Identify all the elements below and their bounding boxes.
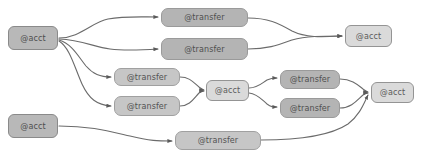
node-label-acct-2: @acct (356, 32, 381, 41)
node-transfer-3[interactable]: @transfer (114, 68, 180, 86)
edge-acct-1-to-transfer-4 (59, 41, 111, 106)
edge-transfer-1-to-acct-2 (248, 18, 342, 37)
node-transfer-4[interactable]: @transfer (114, 96, 180, 116)
node-label-transfer-5: @transfer (290, 75, 331, 84)
edge-transfer-2-to-acct-2 (248, 36, 342, 49)
node-transfer-5[interactable]: @transfer (280, 70, 340, 89)
edge-acct-3-to-transfer-5 (249, 78, 277, 88)
node-acct-5[interactable]: @acct (8, 114, 58, 138)
edge-acct-1-to-transfer-1 (59, 17, 158, 38)
edge-transfer-6-to-acct-4 (340, 93, 368, 108)
edge-acct-1-to-transfer-2 (59, 39, 158, 50)
node-label-acct-3: @acct (215, 86, 240, 95)
node-label-transfer-2: @transfer (184, 45, 225, 54)
edge-acct-3-to-transfer-6 (249, 93, 277, 107)
edge-acct-1-to-transfer-3 (59, 40, 111, 77)
node-transfer-6[interactable]: @transfer (280, 98, 340, 118)
edge-transfer-3-to-acct-3 (180, 77, 204, 90)
node-label-transfer-4: @transfer (127, 102, 168, 111)
edge-acct-5-to-transfer-7 (59, 126, 172, 141)
node-transfer-2[interactable]: @transfer (161, 38, 248, 60)
node-label-transfer-1: @transfer (184, 13, 225, 22)
node-acct-4[interactable]: @acct (371, 82, 414, 103)
node-acct-2[interactable]: @acct (345, 25, 392, 47)
node-transfer-1[interactable]: @transfer (161, 8, 248, 27)
node-label-transfer-7: @transfer (198, 136, 239, 145)
node-label-acct-5: @acct (20, 122, 45, 131)
node-label-acct-4: @acct (380, 88, 405, 97)
edge-transfer-5-to-acct-4 (340, 79, 368, 92)
node-label-transfer-6: @transfer (290, 104, 331, 113)
node-acct-3[interactable]: @acct (206, 80, 249, 101)
node-acct-1[interactable]: @acct (8, 26, 58, 50)
node-transfer-7[interactable]: @transfer (175, 131, 261, 150)
node-label-transfer-3: @transfer (127, 73, 168, 82)
edge-transfer-4-to-acct-3 (180, 91, 204, 106)
node-label-acct-1: @acct (20, 34, 45, 43)
diagram-canvas: @acct@transfer@transfer@acct@transfer@tr… (0, 0, 423, 160)
